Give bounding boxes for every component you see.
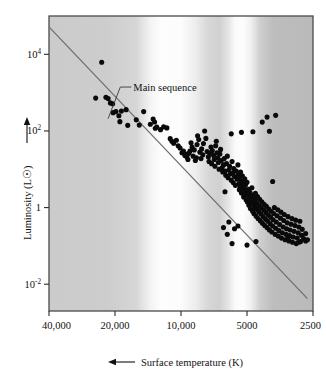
star-point xyxy=(210,148,215,153)
star-point xyxy=(273,113,278,118)
star-point xyxy=(124,107,129,112)
star-point xyxy=(217,151,222,156)
x-axis-title: Surface temperature (K) xyxy=(141,357,244,369)
star-point xyxy=(222,189,227,194)
star-point xyxy=(297,219,302,224)
star-point xyxy=(265,115,270,120)
star-point xyxy=(99,60,104,65)
star-point xyxy=(117,119,122,124)
star-point xyxy=(225,154,230,159)
x-tick-label: 40,000 xyxy=(42,320,71,331)
star-point xyxy=(199,146,204,151)
star-point xyxy=(221,225,226,230)
star-point xyxy=(260,120,265,125)
star-point xyxy=(164,125,169,130)
y-axis-title: Luminosity (L☉) xyxy=(22,165,34,240)
star-point xyxy=(230,241,235,246)
star-point xyxy=(137,123,142,128)
star-point xyxy=(249,185,254,190)
star-point xyxy=(185,157,190,162)
star-point xyxy=(141,109,146,114)
star-point xyxy=(218,147,223,152)
star-point xyxy=(196,137,201,142)
star-point xyxy=(303,238,308,243)
y-tick-label: 1 xyxy=(36,202,41,213)
star-point xyxy=(116,113,121,118)
star-point xyxy=(134,117,139,122)
plot-background xyxy=(49,16,313,311)
star-point xyxy=(203,136,208,141)
y-tick-label: 10-2 xyxy=(25,278,42,290)
star-point xyxy=(212,164,217,169)
x-tick-label: 20,000 xyxy=(101,320,130,331)
star-point xyxy=(213,143,218,148)
star-point xyxy=(200,152,205,157)
x-tick-label: 5000 xyxy=(237,320,258,331)
star-point xyxy=(244,180,249,185)
star-point xyxy=(235,162,240,167)
star-point xyxy=(125,123,130,128)
star-point xyxy=(303,231,308,236)
x-axis-title-group: Surface temperature (K) xyxy=(108,357,244,369)
star-point xyxy=(300,227,305,232)
star-point xyxy=(267,129,272,134)
star-point xyxy=(230,159,235,164)
star-point xyxy=(253,239,258,244)
star-point xyxy=(194,155,199,160)
star-point xyxy=(194,142,199,147)
star-point xyxy=(239,130,244,135)
hr-diagram-figure: Main sequence 40,00020,00010,00050002500… xyxy=(0,0,326,381)
y-tick-label: 102 xyxy=(27,124,42,136)
star-point xyxy=(229,131,234,136)
star-point xyxy=(93,96,98,101)
x-axis-arrow-head xyxy=(108,359,116,365)
star-point xyxy=(296,240,301,245)
star-point xyxy=(226,219,231,224)
main-sequence-annotation: Main sequence xyxy=(133,82,197,93)
y-axis-title-text: Luminosity (L☉) xyxy=(22,165,34,240)
star-point xyxy=(244,243,249,248)
star-point xyxy=(113,109,118,114)
star-point xyxy=(201,141,206,146)
x-axis-ticks: 40,00020,00010,00050002500 xyxy=(42,311,321,331)
y-tick-label: 104 xyxy=(27,48,42,60)
star-point xyxy=(225,232,230,237)
star-point xyxy=(285,235,290,240)
star-point xyxy=(202,128,207,133)
star-point xyxy=(152,119,157,124)
star-point xyxy=(119,109,124,114)
x-tick-label: 2500 xyxy=(300,320,321,331)
star-point xyxy=(235,223,240,228)
y-axis-arrow-head xyxy=(24,117,30,125)
star-point xyxy=(106,96,111,101)
star-point xyxy=(192,147,197,152)
chart-canvas: Main sequence 40,00020,00010,00050002500… xyxy=(0,0,326,381)
star-point xyxy=(250,129,255,134)
star-point xyxy=(214,139,219,144)
star-point xyxy=(270,179,275,184)
star-point xyxy=(174,138,179,143)
x-tick-label: 10,000 xyxy=(167,320,196,331)
